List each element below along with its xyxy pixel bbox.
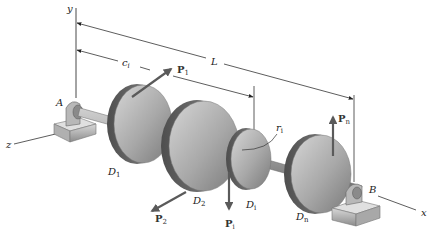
force-Pn-label: Pn xyxy=(338,113,351,126)
x-axis: x xyxy=(378,196,427,218)
support-B-label: B xyxy=(368,184,376,195)
disk-D1: D1 xyxy=(107,84,172,179)
support-A: A xyxy=(54,97,96,142)
length-label: L xyxy=(210,56,218,67)
shaft-disk-diagram: y z x L ci A D1 xyxy=(0,0,433,234)
support-A-label: A xyxy=(55,97,63,108)
disk-Dn-label: Dn xyxy=(295,211,309,224)
z-axis-label: z xyxy=(5,139,12,150)
radius-label: ri xyxy=(276,122,284,135)
x-axis-label: x xyxy=(421,207,427,218)
y-axis: y xyxy=(66,3,76,98)
force-Pi-label: Pi xyxy=(225,218,236,231)
force-P2-label: P2 xyxy=(155,213,167,226)
disk-D2-label: D2 xyxy=(192,195,206,208)
ci-label: ci xyxy=(122,57,130,70)
force-P1-label: P1 xyxy=(177,64,189,77)
force-P1: P1 xyxy=(132,64,189,97)
disk-D1-label: D1 xyxy=(107,166,121,179)
force-P2: P2 xyxy=(152,192,186,226)
disk-Di-label: Di xyxy=(245,199,257,212)
y-axis-label: y xyxy=(66,3,73,14)
